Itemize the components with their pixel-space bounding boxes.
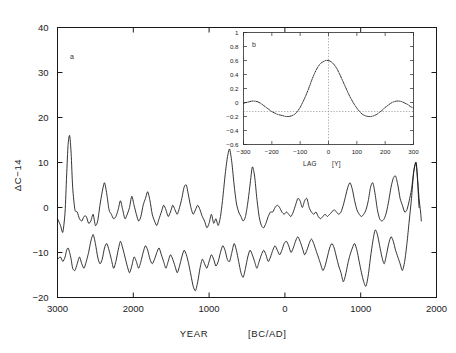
- inset-ytick-label-1: 0.8: [230, 43, 239, 50]
- inset-x-tick-labels: −300−200−1000100200300: [237, 148, 420, 155]
- inset-ytick-label-3: 0.4: [230, 71, 239, 78]
- inset-xaxis-title: LAG: [303, 160, 317, 167]
- inset-panel: −300−200−1000100200300 10.80.60.40.20−0.…: [226, 29, 419, 168]
- main-xaxis-title: YEAR: [180, 328, 208, 339]
- main-y-tick-labels: 403020100−10−20: [32, 22, 48, 303]
- series-line-lower-record: [58, 162, 420, 290]
- panel-label-a: a: [70, 53, 74, 60]
- main-xtick-label-0: 3000: [47, 303, 68, 314]
- inset-ytick-label-5: 0: [235, 99, 239, 106]
- main-ytick-label-5: −10: [32, 247, 48, 258]
- inset-ytick-label-4: 0.2: [230, 85, 239, 92]
- inset-ytick-label-8: −0.6: [226, 141, 239, 148]
- figure-container: 300020001000010002000 403020100−10−20 a …: [0, 0, 456, 353]
- inset-xtick-label-4: 100: [352, 148, 363, 155]
- inset-xtick-label-0: −300: [237, 148, 251, 155]
- inset-ytick-label-2: 0.6: [230, 57, 239, 64]
- inset-xtick-label-6: 300: [408, 148, 419, 155]
- main-yaxis-title: ΔC−14: [12, 159, 23, 191]
- inset-xaxis-unit: [Y]: [332, 160, 341, 168]
- main-xtick-label-2: 1000: [199, 303, 220, 314]
- main-ytick-label-4: 0: [43, 202, 48, 213]
- inset-xtick-label-3: 0: [327, 148, 331, 155]
- chart-svg: 300020001000010002000 403020100−10−20 a …: [0, 0, 456, 353]
- panel-label-b: b: [252, 41, 256, 48]
- main-xtick-label-3: 0: [282, 303, 287, 314]
- main-ytick-label-1: 30: [38, 67, 49, 78]
- inset-ytick-label-6: −0.2: [226, 113, 239, 120]
- inset-xtick-label-2: −100: [293, 148, 307, 155]
- main-ytick-label-3: 10: [38, 157, 49, 168]
- main-xtick-label-1: 2000: [123, 303, 144, 314]
- inset-ytick-label-0: 1: [235, 29, 239, 36]
- main-xtick-label-5: 2000: [426, 303, 447, 314]
- inset-xtick-label-1: −200: [265, 148, 279, 155]
- main-ytick-label-0: 40: [38, 22, 49, 33]
- main-xtick-label-4: 1000: [350, 303, 371, 314]
- main-x-tick-labels: 300020001000010002000: [47, 303, 447, 314]
- inset-ytick-label-7: −0.4: [226, 127, 239, 134]
- inset-y-tick-labels: 10.80.60.40.20−0.2−0.4−0.6: [226, 29, 239, 148]
- inset-xtick-label-5: 200: [380, 148, 391, 155]
- main-xaxis-unit: [BC/AD]: [248, 328, 287, 339]
- main-ytick-label-6: −20: [32, 292, 48, 303]
- main-ytick-label-2: 20: [38, 112, 49, 123]
